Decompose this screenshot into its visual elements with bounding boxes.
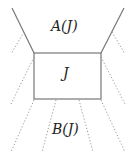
dotted-upper-right bbox=[112, 32, 125, 54]
dotted-mid-right bbox=[101, 57, 125, 104]
label-a-of-j: A(J) bbox=[51, 18, 78, 34]
dotted-bottom-3 bbox=[79, 100, 93, 152]
dotted-bottom-4 bbox=[101, 100, 125, 152]
dotted-mid-left bbox=[11, 57, 34, 104]
dotted-upper-left bbox=[11, 32, 24, 54]
label-j: J bbox=[63, 65, 69, 81]
dotted-bottom-1 bbox=[11, 100, 34, 152]
label-b-of-j: B(J) bbox=[52, 121, 79, 137]
